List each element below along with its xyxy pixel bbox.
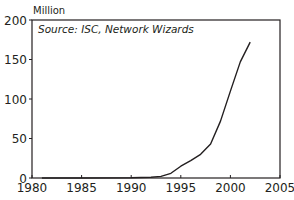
- y-axis: 050100150200: [4, 14, 32, 186]
- y-tick-label: 50: [12, 132, 27, 146]
- x-tick-label: 1990: [116, 181, 147, 195]
- y-tick-label: 150: [4, 53, 27, 67]
- source-annotation: Source: ISC, Network Wizards: [38, 23, 194, 35]
- y-tick-label: 200: [4, 14, 27, 28]
- x-tick-label: 1980: [17, 181, 48, 195]
- line-chart: 050100150200 198019851990199520002005 Mi…: [0, 0, 294, 200]
- data-line: [42, 42, 250, 178]
- x-tick-label: 1985: [66, 181, 97, 195]
- plot-border: [32, 20, 280, 178]
- unit-label: Million: [33, 5, 65, 16]
- x-tick-label: 2000: [215, 181, 246, 195]
- plot-frame: [32, 20, 280, 178]
- x-tick-label: 1995: [166, 181, 197, 195]
- x-tick-label: 2005: [265, 181, 294, 195]
- y-tick-label: 100: [4, 93, 27, 107]
